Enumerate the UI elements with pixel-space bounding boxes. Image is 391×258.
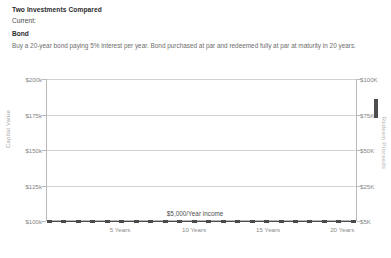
x-axis-tick-label: 20 Years (330, 226, 354, 233)
current-label: Current: (12, 16, 382, 26)
series-marker (163, 220, 168, 223)
x-axis-tick-label: 5 Years (110, 226, 131, 233)
x-axis-tick-labels: 5 Years10 Years15 Years20 Years (46, 226, 357, 238)
investment-comparison-panel: Two Investments Compared Current: Bond B… (0, 0, 391, 258)
y-axis-tick-label: $150k (25, 147, 42, 154)
scheme-description: Buy a 20-year bond paying 5% interest pe… (12, 41, 364, 51)
y-axis-tick-label: $100k (25, 218, 42, 225)
series-marker (336, 220, 341, 223)
y2-axis-tick-mark (357, 115, 361, 116)
series-marker (264, 220, 269, 223)
investment-chart: Capital Value Redeem Proceeds $200k$175k… (0, 68, 391, 258)
x-axis-tick-label: 15 Years (256, 226, 280, 233)
y2-axis-tick-mark (357, 150, 361, 151)
y-axis-tick-label: $125k (25, 182, 42, 189)
y-axis-tick-mark (42, 221, 46, 222)
series-marker (90, 220, 95, 223)
series-marker (177, 220, 182, 223)
gridline (47, 150, 356, 151)
y-axis-tick-labels: $200k$175k$150k$125k$100k (6, 79, 42, 221)
series-marker (279, 220, 284, 223)
series-marker (351, 220, 356, 223)
header-block: Two Investments Compared Current: Bond B… (12, 5, 382, 51)
series-marker (148, 220, 153, 223)
gridline (47, 186, 356, 187)
y2-axis-tick-mark (357, 221, 361, 222)
series-marker (76, 220, 81, 223)
series-marker (307, 220, 312, 223)
y2-axis-tick-label: $25K (360, 182, 374, 189)
y2-axis-tick-labels: $100K$75K$50K$25K$5K (360, 79, 391, 221)
series-annotation: $5,000/Year income (167, 210, 224, 217)
series-marker (293, 220, 298, 223)
x-axis-tick-label: 10 Years (182, 226, 206, 233)
y2-axis-tick-mark (357, 79, 361, 80)
scheme-name: Bond (12, 29, 382, 39)
series-marker (47, 220, 52, 223)
y2-axis-tick-label: $5K (360, 218, 371, 225)
gridline (47, 115, 356, 116)
y-axis-tick-label: $175k (25, 111, 42, 118)
series-marker (322, 220, 327, 223)
y2-axis-tick-label: $100K (360, 76, 378, 83)
series-marker (250, 220, 255, 223)
series-marker (134, 220, 139, 223)
y-axis-tick-label: $200k (25, 76, 42, 83)
series-marker (192, 220, 197, 223)
series-marker (221, 220, 226, 223)
gridline (47, 79, 356, 80)
y2-axis-tick-label: $75K (360, 111, 374, 118)
plot-area: $5,000/Year income (46, 79, 357, 221)
series-marker (61, 220, 66, 223)
y2-axis-tick-mark (357, 186, 361, 187)
series-marker (235, 220, 240, 223)
series-marker (206, 220, 211, 223)
y2-axis-tick-label: $50K (360, 147, 374, 154)
page-title: Two Investments Compared (12, 5, 382, 15)
series-marker (105, 220, 110, 223)
series-marker (119, 220, 124, 223)
series-markers (47, 219, 356, 223)
